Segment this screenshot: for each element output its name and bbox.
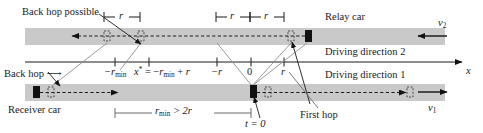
- label-back-hop: Back hop ⟶: [4, 69, 61, 80]
- label-t-zero: t = 0: [245, 119, 266, 130]
- label-driving-direction-2: Driving direction 2: [325, 47, 405, 58]
- hop-connectors: [52, 43, 307, 86]
- diagram-vectors: [0, 0, 483, 133]
- bracket-label-rmin: rmin > 2r: [155, 106, 192, 118]
- tick-label-r: r: [281, 67, 285, 78]
- label-receiver-car: Receiver car: [8, 105, 61, 116]
- tick-label-neg-r: −r: [211, 67, 222, 78]
- relay-car: [305, 30, 312, 42]
- label-driving-direction-1: Driving direction 1: [325, 70, 405, 81]
- bracket-label-r-mid-b: r: [264, 11, 268, 22]
- back-hop-arrow-glyph: ⟶: [47, 68, 61, 79]
- xstar-rr: r: [186, 66, 190, 77]
- axis-label-x: x: [466, 66, 471, 77]
- ghost-cars: [48, 31, 413, 97]
- tick-neg-rmin-sub: min: [115, 71, 126, 79]
- receiver-car: [33, 86, 40, 98]
- tick-neg-rmin-main: −r: [104, 66, 115, 77]
- leader-first-hop: [289, 42, 318, 108]
- label-back-hop-possible: Back hop possible: [22, 7, 99, 18]
- bracket-label-r-left: r: [119, 11, 123, 22]
- rmin-rest: > 2r: [170, 105, 192, 116]
- v2-sub: 2: [443, 22, 447, 30]
- leader-t-zero: [254, 97, 260, 118]
- xstar-eq: = −: [142, 66, 159, 77]
- velocity-label-v2: v2: [438, 18, 446, 30]
- xstar-min: min: [163, 71, 174, 79]
- rmin-sub: min: [159, 110, 170, 118]
- tick-label-zero: 0: [247, 67, 252, 78]
- label-first-hop: First hop: [300, 110, 338, 121]
- xstar-plus: +: [175, 66, 186, 77]
- transmitter-car: [250, 85, 257, 98]
- velocity-label-v1: v1: [428, 103, 436, 115]
- tick-label-xstar: x* = −rmin + r: [134, 67, 190, 79]
- label-back-hop-text: Back hop: [4, 68, 44, 79]
- figure-canvas: Back hop possible Relay car Driving dire…: [0, 0, 483, 133]
- x-axis: [25, 58, 462, 67]
- bracket-label-r-mid-a: r: [230, 11, 234, 22]
- label-relay-car: Relay car: [325, 12, 365, 23]
- tick-label-neg-rmin: −rmin: [104, 67, 126, 79]
- v1-sub: 1: [433, 107, 437, 115]
